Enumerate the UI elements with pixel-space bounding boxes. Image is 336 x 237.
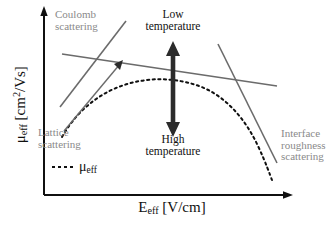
y-axis-title-base: μ [12, 135, 28, 143]
phonon-lattice-scattering-line [62, 54, 277, 86]
annotation-pointer-lines [64, 60, 123, 131]
x-axis-title-subscript: eff [147, 205, 158, 216]
annotation-coulomb-scattering: Coulomb scattering [55, 9, 133, 32]
temperature-arrow-head-up [166, 41, 180, 56]
y-axis-title-unit-exponent: 2 [11, 92, 22, 97]
y-axis-title-unit-post: /Vs] [12, 66, 28, 92]
y-axis-title: μeff [cm2/Vs] [12, 40, 30, 170]
legend-mu-subscript: eff [87, 165, 97, 175]
legend-entry-mu-eff-label: μeff [79, 160, 97, 175]
annotation-low-temperature: Low temperature [131, 8, 215, 32]
x-axis-arrowhead [283, 191, 293, 198]
annotation-interface-roughness-scattering: Interface roughness scattering [281, 128, 336, 163]
y-axis-title-unit-pre: [cm [12, 97, 28, 124]
annotation-high-temperature: High temperature [131, 133, 215, 157]
annotation-lattice-scattering: Lattice scattering [38, 127, 118, 150]
y-axis-title-subscript: eff [18, 124, 29, 135]
mobility-vs-field-schematic-figure: Coulomb scattering Lattice scattering In… [0, 0, 336, 237]
x-axis-title: Eeff [V/cm] [108, 200, 236, 217]
y-axis-arrowhead [40, 6, 47, 16]
lattice-scattering-pointer-line [64, 64, 120, 131]
x-axis-title-unit: [V/cm] [159, 199, 206, 215]
temperature-double-arrow [166, 41, 180, 137]
legend-mu-symbol: μ [79, 159, 87, 174]
